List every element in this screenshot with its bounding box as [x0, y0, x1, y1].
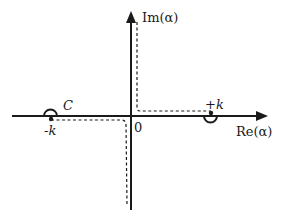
point-minus-k [49, 117, 53, 121]
imaginary-axis-arrow-icon [126, 11, 136, 23]
complex-plane-diagram [0, 0, 281, 223]
minus-k-label: -k [44, 124, 56, 137]
imaginary-axis-label: Im(α) [142, 11, 178, 24]
contour-label: C [63, 99, 73, 112]
imaginary-axis [126, 11, 136, 210]
real-axis-label: Re(α) [236, 125, 272, 138]
origin-label: 0 [134, 121, 142, 134]
contour-upper-branch [137, 22, 211, 111]
contour-lower-branch [51, 120, 127, 205]
real-axis-arrow-icon [256, 111, 268, 121]
plus-k-label: +k [205, 98, 224, 111]
